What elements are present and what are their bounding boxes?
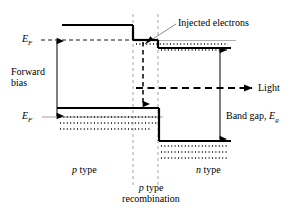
valence-band	[57, 108, 231, 141]
light-label: Light	[258, 82, 280, 93]
band-gap-subscript: g	[275, 116, 279, 124]
band-gap-label: Band gap, Eg	[226, 110, 279, 126]
fermi-level-upper-label: EF	[22, 33, 32, 49]
recombination-label-line1: p type	[106, 182, 196, 193]
injected-electrons-label: Injected electrons	[178, 17, 249, 28]
band-gap-label-text: Band gap,	[226, 110, 269, 121]
fermi-lower-subscript: F	[28, 116, 32, 124]
band-diagram-canvas	[0, 0, 305, 210]
recombination-label: p type recombination	[106, 182, 196, 204]
p-type-word: type	[77, 164, 97, 175]
recombination-label-line2: recombination	[106, 193, 196, 204]
forward-bias-label-line1: Forward	[11, 66, 45, 77]
p-type-label: p type	[72, 164, 97, 175]
fermi-upper-subscript: F	[28, 39, 32, 47]
band-diagram-figure: EF EF Forward bias Injected electrons Li…	[0, 0, 305, 210]
injected-electrons-leader	[145, 24, 176, 44]
fermi-level-lower-label: EF	[22, 110, 32, 126]
forward-bias-label-line2: bias	[11, 77, 45, 88]
n-type-word: type	[201, 164, 221, 175]
n-type-label: n type	[196, 164, 221, 175]
recombination-p-word: type	[144, 182, 164, 193]
n-valence-dots	[161, 146, 228, 158]
p-valence-dots	[60, 117, 157, 129]
forward-bias-label: Forward bias	[11, 66, 45, 88]
